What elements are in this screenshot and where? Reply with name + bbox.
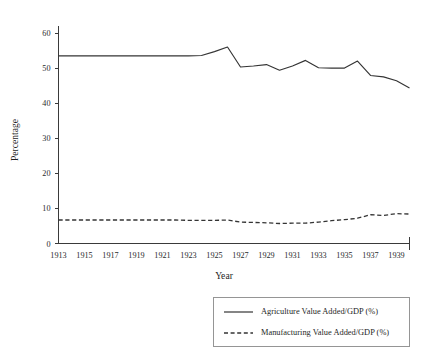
x-tick-label: 1939 (388, 251, 404, 260)
x-tick-label: 1929 (258, 251, 274, 260)
y-tick-label: 30 (42, 134, 50, 143)
y-tick-label: 10 (42, 204, 50, 213)
series-line-manufacturing (59, 214, 410, 224)
data-series-group (59, 47, 410, 223)
x-axis: 1913191519171919192119231925192719291931… (50, 237, 410, 281)
x-tick-label: 1927 (232, 251, 248, 260)
x-axis-title: Year (215, 270, 233, 281)
x-tick-label: 1923 (180, 251, 196, 260)
legend-label-manufacturing: Manufacturing Value Added/GDP (%) (261, 328, 389, 337)
x-tick-label: 1919 (128, 251, 144, 260)
x-tick-label: 1921 (154, 251, 170, 260)
x-tick-label: 1935 (336, 251, 352, 260)
chart-legend: Agriculture Value Added/GDP (%) Manufact… (214, 298, 410, 347)
x-tick-label: 1915 (76, 251, 92, 260)
legend-border (214, 298, 410, 347)
y-tick-label: 50 (42, 64, 50, 73)
x-tick-label: 1937 (362, 251, 378, 260)
y-axis-tick-labels: 0102030405060 (42, 29, 50, 248)
x-tick-label: 1917 (102, 251, 118, 260)
series-line-agriculture (59, 47, 410, 88)
y-tick-label: 0 (46, 240, 50, 249)
x-tick-label: 1925 (206, 251, 222, 260)
y-axis: 0102030405060 Percentage (9, 26, 59, 249)
x-axis-tick-labels: 1913191519171919192119231925192719291931… (50, 251, 404, 260)
x-tick-label: 1931 (284, 251, 300, 260)
y-tick-label: 20 (42, 169, 50, 178)
y-tick-label: 40 (42, 99, 50, 108)
x-tick-label: 1913 (50, 251, 66, 260)
legend-label-agriculture: Agriculture Value Added/GDP (%) (261, 307, 378, 316)
line-chart: 0102030405060 Percentage 191319151917191… (0, 0, 423, 353)
y-tick-label: 60 (42, 29, 50, 38)
y-axis-ticks (55, 33, 59, 243)
chart-figure: 0102030405060 Percentage 191319151917191… (0, 0, 423, 353)
y-axis-title: Percentage (9, 119, 20, 161)
x-tick-label: 1933 (310, 251, 326, 260)
